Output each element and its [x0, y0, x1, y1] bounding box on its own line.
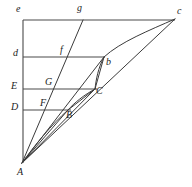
- point-label-e: e: [16, 4, 20, 14]
- point-label-F: F: [40, 98, 46, 108]
- point-label-G: G: [45, 77, 52, 87]
- point-label-A: A: [17, 167, 23, 177]
- point-label-B: B: [66, 110, 72, 120]
- point-label-C: C: [96, 86, 103, 96]
- ray-A-to-B: [22, 110, 68, 163]
- point-label-d: d: [13, 48, 18, 58]
- curve-c-to-b: [104, 19, 175, 57]
- point-label-E: E: [11, 81, 17, 91]
- point-label-b: b: [106, 57, 111, 67]
- point-label-f: f: [60, 45, 63, 55]
- geometry-figure: e g c d f b E G C D F B A: [0, 0, 192, 187]
- ray-A-to-g: [22, 20, 83, 163]
- point-label-c: c: [177, 6, 181, 16]
- ray-A-to-C: [22, 89, 95, 163]
- point-label-D: D: [11, 102, 18, 112]
- point-label-g: g: [77, 3, 82, 13]
